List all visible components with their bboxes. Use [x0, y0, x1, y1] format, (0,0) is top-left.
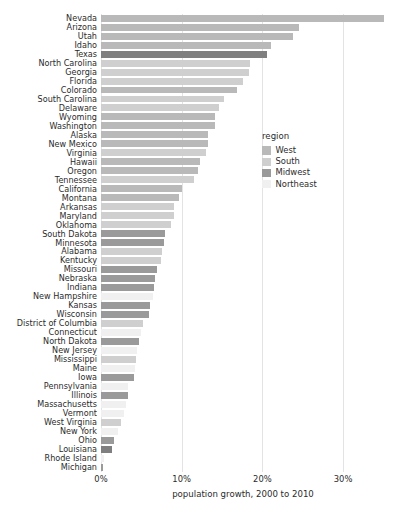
legend-item-northeast[interactable]: Northeast [262, 179, 357, 190]
bar-row [101, 113, 385, 122]
bar-oklahoma [101, 221, 171, 228]
bar-row [101, 301, 385, 310]
bar-row [101, 364, 385, 373]
legend-label-south: South [276, 156, 300, 167]
bar-row [101, 256, 385, 265]
legend-item-south[interactable]: South [262, 156, 357, 167]
bar-row [101, 310, 385, 319]
bar-alaska [101, 131, 208, 138]
bar-row [101, 194, 385, 203]
bar-wisconsin [101, 311, 149, 318]
bar-new-jersey [101, 347, 137, 354]
legend-item-midwest[interactable]: Midwest [262, 167, 357, 178]
bar-row [101, 319, 385, 328]
bar-row [101, 212, 385, 221]
bar-row [101, 436, 385, 445]
bar-vermont [101, 410, 124, 417]
bar-missouri [101, 266, 157, 273]
x-tick-label-10pct: 10% [172, 474, 191, 484]
bar-row [101, 274, 385, 283]
bar-row [101, 346, 385, 355]
bar-new-mexico [101, 140, 208, 147]
x-tick-label-0pct: 0% [94, 474, 107, 484]
bar-utah [101, 33, 293, 40]
bar-mississippi [101, 356, 136, 363]
bar-row [101, 50, 385, 59]
population-growth-bar-chart: NevadaArizonaUtahIdahoTexasNorth Carolin… [0, 0, 405, 518]
bar-minnesota [101, 239, 164, 246]
bar-nevada [101, 15, 384, 22]
bar-louisiana [101, 446, 112, 453]
x-axis-title: population growth, 2000 to 2010 [101, 489, 385, 499]
bar-kentucky [101, 257, 161, 264]
bar-michigan [101, 464, 103, 471]
legend-label-west: West [276, 145, 297, 156]
bar-nebraska [101, 275, 155, 282]
bar-row [101, 373, 385, 382]
bar-indiana [101, 284, 154, 291]
bar-north-carolina [101, 60, 250, 67]
bar-west-virginia [101, 419, 121, 426]
bar-colorado [101, 87, 237, 94]
bar-iowa [101, 374, 134, 381]
bar-montana [101, 194, 179, 201]
bar-maine [101, 365, 135, 372]
bar-row [101, 23, 385, 32]
bar-row [101, 86, 385, 95]
bar-row [101, 68, 385, 77]
bar-illinois [101, 392, 128, 399]
legend-swatch-midwest-icon [262, 169, 271, 178]
legend-item-west[interactable]: West [262, 145, 357, 156]
legend-swatch-south-icon [262, 158, 271, 167]
bar-tennessee [101, 176, 194, 183]
bar-connecticut [101, 329, 141, 336]
bar-hawaii [101, 158, 200, 165]
bar-north-dakota [101, 338, 139, 345]
bar-idaho [101, 42, 271, 49]
legend-label-northeast: Northeast [276, 179, 317, 190]
bar-row [101, 418, 385, 427]
bar-ohio [101, 437, 114, 444]
bar-row [101, 292, 385, 301]
bar-row [101, 445, 385, 454]
bar-new-york [101, 428, 118, 435]
bar-row [101, 265, 385, 274]
bar-georgia [101, 69, 249, 76]
bar-washington [101, 122, 215, 129]
bar-texas [101, 51, 267, 58]
bar-row [101, 391, 385, 400]
bar-row [101, 122, 385, 131]
bar-row [101, 337, 385, 346]
bar-row [101, 14, 385, 23]
bar-south-carolina [101, 96, 224, 103]
x-tick-label-20pct: 20% [253, 474, 272, 484]
plot-area [101, 14, 385, 472]
bar-arkansas [101, 203, 174, 210]
bar-row [101, 355, 385, 364]
bar-row [101, 463, 385, 472]
x-tick-label-30pct: 30% [334, 474, 353, 484]
bar-pennsylvania [101, 383, 128, 390]
bar-row [101, 41, 385, 50]
bar-row [101, 95, 385, 104]
bar-kansas [101, 302, 150, 309]
bar-south-dakota [101, 230, 165, 237]
bar-florida [101, 78, 243, 85]
legend-label-midwest: Midwest [276, 167, 311, 178]
bar-arizona [101, 24, 299, 31]
bar-maryland [101, 212, 174, 219]
bar-row [101, 409, 385, 418]
bar-alabama [101, 248, 162, 255]
bar-row [101, 77, 385, 86]
bar-row [101, 427, 385, 436]
bar-california [101, 185, 182, 192]
bar-row [101, 59, 385, 68]
category-axis-labels: NevadaArizonaUtahIdahoTexasNorth Carolin… [0, 14, 97, 472]
bar-wyoming [101, 113, 215, 120]
bar-rhode-island [101, 455, 104, 462]
bar-row [101, 32, 385, 41]
bar-row [101, 230, 385, 239]
bar-district-of-columbia [101, 320, 143, 327]
legend-items: WestSouthMidwestNortheast [262, 145, 357, 190]
bar-row [101, 239, 385, 248]
